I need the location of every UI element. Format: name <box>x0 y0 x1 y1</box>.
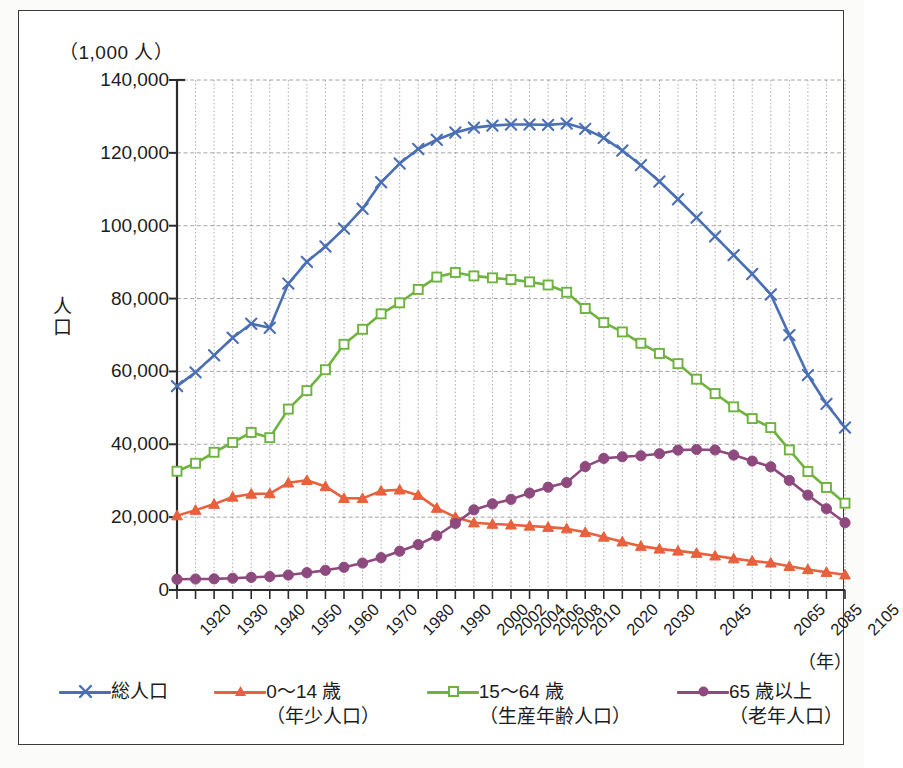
data-point <box>636 451 646 461</box>
data-point <box>599 453 609 463</box>
data-point <box>283 278 293 288</box>
data-point <box>785 445 794 454</box>
data-point <box>803 490 813 500</box>
data-point <box>377 309 386 318</box>
data-point <box>357 558 367 568</box>
data-point <box>191 459 200 468</box>
data-point <box>524 488 534 498</box>
data-point <box>692 375 701 384</box>
data-point <box>246 572 256 582</box>
data-point <box>302 257 312 267</box>
data-point <box>209 574 219 584</box>
data-point <box>691 444 701 454</box>
data-point <box>581 304 590 313</box>
data-point <box>748 414 757 423</box>
legend-label-line1: 65 歳以上 <box>729 681 812 702</box>
data-point <box>784 475 794 485</box>
data-point <box>803 467 812 476</box>
data-point <box>821 504 831 514</box>
data-point <box>617 452 627 462</box>
circle-marker-icon <box>677 680 729 704</box>
data-point <box>469 271 478 280</box>
data-point <box>636 339 645 348</box>
chart-svg <box>177 80 847 606</box>
legend-label-line1: 0〜14 歳 <box>266 681 341 702</box>
data-point <box>654 176 664 186</box>
legend-label: 15〜64 歳（生産年齢人口） <box>479 679 631 729</box>
grid-lines <box>177 80 845 590</box>
data-point <box>507 275 516 284</box>
y-axis-tick-label: 80,000 <box>111 288 169 310</box>
data-point <box>450 518 460 528</box>
legend-label-line2: （老年人口） <box>729 704 843 729</box>
data-point <box>210 448 219 457</box>
data-point <box>562 477 572 487</box>
data-point <box>414 285 423 294</box>
data-point <box>766 462 776 472</box>
y-axis-tick-label: 0 <box>158 579 169 601</box>
plot-area <box>177 80 845 590</box>
data-point <box>525 277 534 286</box>
data-point <box>358 325 367 334</box>
data-point <box>487 499 497 509</box>
data-point <box>469 505 479 515</box>
plot-canvas <box>177 80 845 590</box>
data-point <box>320 565 330 575</box>
data-point <box>227 333 237 343</box>
y-axis-tick-label: 60,000 <box>111 360 169 382</box>
data-point <box>654 449 664 459</box>
legend-label-line2: （年少人口） <box>266 704 380 729</box>
axes <box>169 80 845 599</box>
data-point <box>432 531 442 541</box>
legend-label: 65 歳以上（老年人口） <box>729 679 843 729</box>
data-point <box>265 433 274 442</box>
data-point <box>228 573 238 583</box>
data-point <box>190 574 200 584</box>
data-point <box>432 135 442 145</box>
data-point <box>617 145 627 155</box>
data-point <box>599 318 608 327</box>
legend-label-line1: 15〜64 歳 <box>479 681 565 702</box>
chart-legend: 総人口0〜14 歳（年少人口）15〜64 歳（生産年齢人口）65 歳以上（老年人… <box>59 679 843 745</box>
data-point <box>413 539 423 549</box>
y-axis-tick-labels: 140,000120,000100,00080,00060,00040,0002… <box>57 68 169 593</box>
y-axis-tick-label: 20,000 <box>111 506 169 528</box>
data-point <box>357 204 367 214</box>
data-point <box>655 349 664 358</box>
data-point <box>265 571 275 581</box>
data-point <box>729 450 739 460</box>
x-axis-unit-label: （年） <box>798 647 852 673</box>
data-point <box>395 298 404 307</box>
legend-label: 総人口 <box>111 679 168 704</box>
data-point <box>562 288 571 297</box>
data-point <box>506 494 516 504</box>
legend-item-total-population[interactable]: 総人口 <box>59 679 168 704</box>
chart-frame: （1,000 人） 人口 140,000120,000100,00080,000… <box>18 10 844 745</box>
legend-item-elderly-population[interactable]: 65 歳以上（老年人口） <box>677 679 843 729</box>
data-point <box>432 273 441 282</box>
data-point <box>376 553 386 563</box>
data-point <box>283 570 293 580</box>
y-axis-tick-label: 120,000 <box>100 142 169 164</box>
data-point <box>247 428 256 437</box>
data-point <box>172 574 182 584</box>
data-point <box>488 273 497 282</box>
data-point <box>766 423 775 432</box>
data-point <box>673 445 683 455</box>
data-point <box>580 462 590 472</box>
data-point <box>543 482 553 492</box>
data-point <box>451 268 460 277</box>
data-point <box>729 402 738 411</box>
data-point <box>302 386 311 395</box>
legend-item-young-population[interactable]: 0〜14 歳（年少人口） <box>214 679 380 729</box>
data-point <box>302 568 312 578</box>
cross-marker-icon <box>59 680 111 704</box>
y-axis-tick-label: 140,000 <box>100 69 169 91</box>
x-axis-tick-label: 2105 <box>864 600 903 639</box>
legend-label-line2: （生産年齢人口） <box>479 704 631 729</box>
data-point <box>190 367 200 377</box>
legend-item-working-age-population[interactable]: 15〜64 歳（生産年齢人口） <box>427 679 631 729</box>
legend-label-line1: 総人口 <box>111 681 168 702</box>
data-point <box>173 467 182 476</box>
